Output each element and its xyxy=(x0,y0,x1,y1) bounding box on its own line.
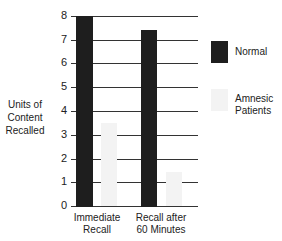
y-axis-label-line: Units of xyxy=(2,98,48,111)
legend-label-line: Patients xyxy=(235,105,273,117)
x-category-line: 60 Minutes xyxy=(126,224,196,236)
y-tick-3: 3 xyxy=(57,128,67,140)
bar-normal-immediate xyxy=(76,16,93,207)
y-tick-7: 7 xyxy=(57,33,67,45)
y-tick-6: 6 xyxy=(57,56,67,68)
bar-normal-60min xyxy=(141,30,157,207)
x-category-line: Recall after xyxy=(126,212,196,224)
y-tick-2: 2 xyxy=(57,152,67,164)
legend-label-normal: Normal xyxy=(235,46,267,58)
bar-amnesic-60min xyxy=(166,172,182,206)
x-category-60min: Recall after 60 Minutes xyxy=(126,212,196,236)
legend-label-line: Amnesic xyxy=(235,93,273,105)
bar-amnesic-immediate xyxy=(101,123,117,206)
y-tick-0: 0 xyxy=(57,199,67,211)
y-tick-8: 8 xyxy=(57,9,67,21)
x-category-line: Recall xyxy=(62,224,132,236)
y-axis-label-line: Content xyxy=(2,111,48,124)
legend-swatch-normal xyxy=(211,41,228,63)
y-axis-label-line: Recalled xyxy=(2,124,48,137)
x-category-line: Immediate xyxy=(62,212,132,224)
y-axis-label: Units of Content Recalled xyxy=(2,98,48,137)
legend-label-amnesic: Amnesic Patients xyxy=(235,93,273,117)
y-tick-5: 5 xyxy=(57,80,67,92)
y-tick-4: 4 xyxy=(57,104,67,116)
legend-swatch-amnesic xyxy=(211,89,228,111)
x-category-immediate: Immediate Recall xyxy=(62,212,132,236)
y-tick-1: 1 xyxy=(57,175,67,187)
